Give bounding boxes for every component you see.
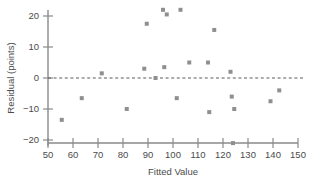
data-point: [161, 8, 165, 12]
x-tick-label: 60: [68, 149, 79, 160]
x-tick-label: 120: [215, 149, 231, 160]
data-point: [100, 71, 104, 75]
data-point: [179, 8, 183, 12]
y-tick-label: 10: [28, 41, 39, 52]
x-tick-label: 70: [93, 149, 104, 160]
data-point: [145, 22, 149, 26]
data-point: [212, 28, 216, 32]
y-axis-title: Residual (points): [5, 42, 16, 113]
data-point: [165, 12, 169, 16]
x-tick-label: 110: [190, 149, 205, 160]
data-point: [142, 67, 146, 71]
plot-canvas: −20−10010205060708090100110120130140150F…: [0, 0, 326, 185]
data-point: [207, 110, 211, 114]
x-tick-label: 150: [290, 149, 306, 160]
residual-scatter-chart: −20−10010205060708090100110120130140150F…: [0, 0, 326, 185]
data-point: [231, 141, 235, 145]
data-point: [154, 76, 158, 80]
data-point: [175, 96, 179, 100]
data-point: [232, 107, 236, 111]
data-point: [269, 99, 273, 103]
data-point: [125, 107, 129, 111]
y-tick-label: −20: [23, 134, 39, 145]
data-point: [80, 96, 84, 100]
data-point: [230, 95, 234, 99]
data-point: [60, 118, 64, 122]
x-tick-label: 130: [240, 149, 256, 160]
data-point: [206, 61, 210, 65]
y-tick-label: 20: [28, 10, 39, 21]
y-tick-label: −10: [23, 103, 39, 114]
data-point: [229, 70, 233, 74]
x-tick-label: 80: [118, 149, 129, 160]
data-point: [187, 61, 191, 65]
data-point: [277, 88, 281, 92]
x-tick-label: 100: [165, 149, 181, 160]
x-tick-label: 90: [143, 149, 154, 160]
y-tick-label: 0: [34, 72, 39, 83]
data-point: [162, 65, 166, 69]
x-axis-title: Fitted Value: [148, 166, 198, 177]
x-tick-label: 140: [265, 149, 281, 160]
x-tick-label: 50: [43, 149, 54, 160]
